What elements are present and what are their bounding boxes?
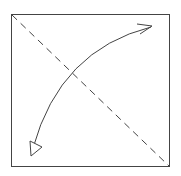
fold-diagram — [0, 0, 181, 176]
